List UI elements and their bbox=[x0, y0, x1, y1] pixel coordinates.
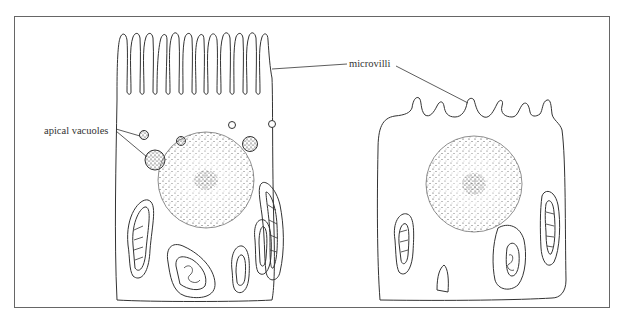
apical-vacuoles-label: apical vacuoles bbox=[44, 126, 108, 137]
right-nucleus bbox=[426, 136, 522, 232]
left-nucleus bbox=[158, 132, 254, 228]
figure-frame bbox=[15, 17, 610, 308]
microvilli-label: microvilli bbox=[349, 59, 390, 70]
right-cell bbox=[377, 97, 566, 300]
label-leaders bbox=[116, 64, 468, 157]
cell-diagram bbox=[0, 0, 625, 321]
left-cell bbox=[115, 33, 283, 302]
